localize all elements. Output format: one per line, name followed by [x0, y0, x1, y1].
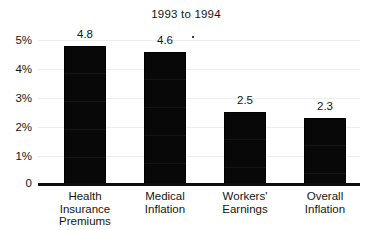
plot-area: 4.8 4.6 2.5 2.3: [38, 30, 360, 185]
bar-value-label: 4.8: [50, 28, 120, 40]
category-label-health-insurance-premiums: Health Insurance Premiums: [42, 190, 128, 228]
bar-health-insurance-premiums[interactable]: [64, 46, 106, 185]
category-label-line: Premiums: [42, 215, 128, 228]
bar-texture: [144, 52, 186, 185]
category-label-line: Overall: [282, 190, 368, 203]
category-label-line: Inflation: [122, 203, 208, 216]
category-label-line: Medical: [122, 190, 208, 203]
chart-title: 1993 to 1994: [0, 8, 372, 20]
bar-workers-earnings[interactable]: [224, 112, 266, 185]
y-tick-label-5: 5%: [2, 34, 32, 46]
y-axis: 5% 4% 3% 2% 1% 0: [0, 0, 38, 230]
y-tick-label-2: 2%: [2, 121, 32, 133]
category-label-medical-inflation: Medical Inflation: [122, 190, 208, 215]
bar-medical-inflation[interactable]: [144, 52, 186, 185]
category-label-line: Workers': [202, 190, 288, 203]
category-label-line: Insurance: [42, 203, 128, 216]
y-tick-label-4: 4%: [2, 63, 32, 75]
y-tick-label-0: 0: [2, 177, 32, 189]
category-label-workers-earnings: Workers' Earnings: [202, 190, 288, 215]
x-axis-baseline: [38, 183, 360, 186]
bar-texture: [64, 46, 106, 185]
category-label-line: Earnings: [202, 203, 288, 216]
y-tick-label-1: 1%: [2, 150, 32, 162]
bar-value-label: 2.5: [210, 94, 280, 106]
bar-chart: 1993 to 1994 5% 4% 3% 2% 1% 0 4.8 4.6 2.…: [0, 0, 372, 230]
y-tick-label-3: 3%: [2, 92, 32, 104]
bar-value-label: 4.6: [130, 34, 200, 46]
scan-speck-artifact: [192, 36, 194, 38]
bar-texture: [304, 118, 346, 185]
category-label-overall-inflation: Overall Inflation: [282, 190, 368, 215]
bar-texture: [224, 112, 266, 185]
bar-overall-inflation[interactable]: [304, 118, 346, 185]
category-label-line: Inflation: [282, 203, 368, 216]
bar-value-label: 2.3: [290, 100, 360, 112]
category-label-line: Health: [42, 190, 128, 203]
